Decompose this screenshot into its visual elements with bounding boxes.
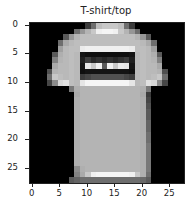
y-tick-mark [25, 53, 29, 54]
x-tick-label: 20 [136, 188, 147, 198]
x-tick-label: 10 [81, 188, 92, 198]
y-tick-label: 10 [7, 76, 18, 86]
y-axis: 0510152025 [0, 22, 24, 182]
x-tick-mark [114, 183, 115, 187]
x-axis: 0510152025 [29, 182, 183, 202]
chart-title: T-shirt/top [29, 4, 183, 18]
pixel-grid [30, 23, 184, 183]
x-tick-mark [142, 183, 143, 187]
y-tick-mark [25, 111, 29, 112]
x-tick-label: 5 [57, 188, 62, 198]
x-tick-mark [169, 183, 170, 187]
y-tick-label: 15 [7, 105, 18, 115]
y-tick-mark [25, 168, 29, 169]
y-tick-label: 0 [13, 19, 18, 29]
x-tick-mark [59, 183, 60, 187]
y-tick-label: 20 [7, 133, 18, 143]
x-tick-label: 15 [109, 188, 120, 198]
y-tick-mark [25, 82, 29, 83]
y-tick-mark [25, 139, 29, 140]
y-tick-label: 5 [13, 47, 18, 57]
y-tick-label: 25 [7, 162, 18, 172]
x-tick-label: 25 [164, 188, 175, 198]
image-plot-area [29, 22, 185, 184]
x-tick-mark [87, 183, 88, 187]
y-tick-mark [25, 25, 29, 26]
x-tick-label: 0 [29, 188, 34, 198]
x-tick-mark [32, 183, 33, 187]
